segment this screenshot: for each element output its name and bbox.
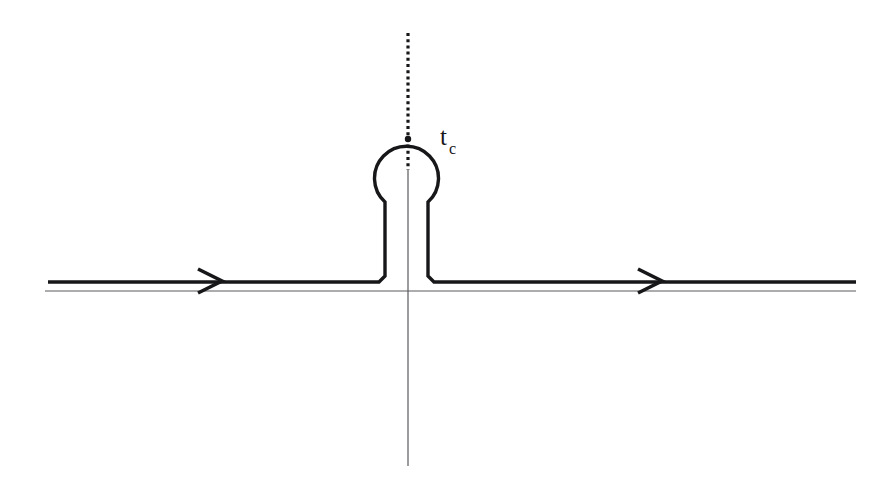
branch-point-marker	[405, 136, 411, 142]
contour-diagram-figure: tc	[0, 0, 892, 499]
branch-point-label-base: t	[440, 123, 447, 150]
integration-contour-path	[48, 146, 856, 282]
branch-point-label-subscript: c	[449, 140, 456, 157]
contour-diagram-canvas	[0, 0, 892, 499]
branch-point-label: tc	[440, 124, 454, 154]
